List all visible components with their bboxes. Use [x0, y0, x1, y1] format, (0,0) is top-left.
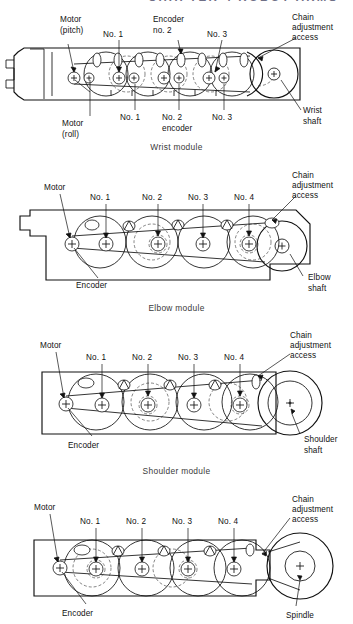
shoulder-chain-label-1: Chain — [290, 331, 312, 340]
wrist-no3-bottom-label: No. 3 — [212, 113, 232, 122]
elbow-module-figure: Motor No. 1 No. 2 No. 3 No. 4 Chain adju… — [0, 168, 353, 298]
wrist-motor-pitch-sublabel: (pitch) — [60, 26, 84, 35]
shoulder-no4-label: No. 4 — [224, 353, 244, 362]
wrist-motor-roll-label: Motor — [62, 119, 84, 128]
spindle-shaft-label-1: Spindle — [286, 611, 314, 620]
spindle-chain-label-1: Chain — [292, 495, 314, 504]
elbow-shaft-label-1: Elbow — [308, 273, 331, 282]
wrist-encoder2-top-label: Encoder — [153, 15, 184, 24]
shoulder-no3-label: No. 3 — [178, 353, 198, 362]
spindle-chain-label-2: adjustment — [292, 505, 334, 514]
elbow-no4-label: No. 4 — [234, 193, 254, 202]
shoulder-module-caption: Shoulder module — [0, 466, 353, 476]
wrist-encoder2-top-sublabel: no. 2 — [153, 26, 172, 35]
elbow-motor-label: Motor — [44, 183, 66, 192]
spindle-chain-label-3: access — [292, 515, 318, 524]
wrist-shaft-label-1: Wrist — [303, 106, 323, 115]
shoulder-module-figure: Motor No. 1 No. 2 No. 3 No. 4 Chain adju… — [0, 330, 353, 458]
shoulder-chain-label-2: adjustment — [290, 341, 332, 350]
spindle-no1-label: No. 1 — [80, 517, 100, 526]
shoulder-shaft-label-2: shaft — [304, 446, 323, 455]
running-head-text: CHAPTER 4 ROBOT ARMS — [148, 0, 339, 3]
shoulder-shaft-label-1: Shoulder — [304, 435, 338, 444]
elbow-module-drawing: Motor No. 1 No. 2 No. 3 No. 4 Chain adju… — [0, 168, 353, 298]
wrist-chain-label-3: access — [292, 33, 318, 42]
elbow-chain-label-2: adjustment — [292, 181, 334, 190]
wrist-module-caption: Wrist module — [0, 142, 353, 152]
wrist-no1-bottom-label: No. 1 — [120, 113, 140, 122]
shoulder-no2-label: No. 2 — [132, 353, 152, 362]
wrist-motor-pitch-label: Motor — [60, 15, 82, 24]
wrist-no2-enc-label: No. 2 — [162, 113, 182, 122]
shoulder-module-drawing: Motor No. 1 No. 2 No. 3 No. 4 Chain adju… — [0, 330, 353, 458]
elbow-shaft-label-2: shaft — [308, 284, 327, 293]
elbow-encoder-label: Encoder — [76, 281, 107, 290]
shoulder-encoder-label: Encoder — [68, 441, 99, 450]
spindle-motor-label: Motor — [34, 503, 56, 512]
wrist-chain-label-1: Chain — [292, 13, 314, 22]
elbow-chain-label-3: access — [292, 191, 318, 200]
spindle-no4-label: No. 4 — [218, 517, 238, 526]
spindle-no3-label: No. 3 — [172, 517, 192, 526]
spindle-module-drawing: Motor No. 1 No. 2 No. 3 No. 4 Chain adju… — [0, 492, 353, 624]
wrist-shaft-label-2: shaft — [303, 117, 322, 126]
figure-page: CHAPTER 4 ROBOT ARMS — [0, 0, 353, 624]
elbow-no2-label: No. 2 — [142, 193, 162, 202]
wrist-no1-top-label: No. 1 — [103, 30, 123, 39]
wrist-module-drawing: Motor (pitch) No. 1 Encoder no. 2 No. 3 … — [0, 8, 353, 140]
spindle-no2-label: No. 2 — [126, 517, 146, 526]
elbow-no3-label: No. 3 — [188, 193, 208, 202]
running-head: CHAPTER 4 ROBOT ARMS — [0, 0, 353, 7]
shoulder-motor-label: Motor — [40, 341, 62, 350]
elbow-module-caption: Elbow module — [0, 303, 353, 313]
wrist-chain-label-2: adjustment — [292, 23, 334, 32]
wrist-no3-top-label: No. 3 — [207, 30, 227, 39]
elbow-chain-label-1: Chain — [292, 171, 314, 180]
wrist-motor-roll-sublabel: (roll) — [62, 130, 79, 139]
spindle-encoder-label: Encoder — [62, 609, 93, 618]
spindle-module-figure: Motor No. 1 No. 2 No. 3 No. 4 Chain adju… — [0, 492, 353, 624]
wrist-no2-enc-sublabel: encoder — [162, 124, 192, 133]
wrist-module-figure: Motor (pitch) No. 1 Encoder no. 2 No. 3 … — [0, 8, 353, 140]
shoulder-no1-label: No. 1 — [86, 353, 106, 362]
elbow-no1-label: No. 1 — [90, 193, 110, 202]
shoulder-chain-label-3: access — [290, 351, 316, 360]
